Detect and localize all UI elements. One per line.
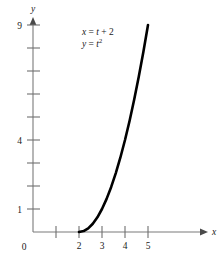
x-tick-label-5: 5 (146, 241, 151, 251)
equation-x: x = t + 2 (82, 27, 114, 39)
y-tick-label-9: 9 (17, 21, 22, 31)
equation-y-lhs: y (82, 39, 86, 49)
x-tick-label-4: 4 (123, 241, 128, 251)
equation-x-rhs: + 2 (101, 27, 113, 37)
y-tick-label-1: 1 (17, 205, 22, 215)
equation-y-equals: = (89, 39, 94, 49)
x-axis-label: x (211, 227, 217, 237)
y-axis-label: y (30, 4, 36, 14)
parametric-curve-figure: 9 4 1 0 2 3 4 5 y x x = t + 2 y = t2 (0, 0, 222, 257)
equation-annotation: x = t + 2 y = t2 (82, 27, 114, 50)
equation-x-lhs: x (82, 27, 86, 37)
x-axis-arrowhead (200, 229, 208, 236)
x-tick-label-3: 3 (100, 241, 105, 251)
equation-y: y = t2 (82, 39, 114, 51)
y-axis-arrowhead (30, 17, 37, 25)
equation-y-exponent: 2 (99, 36, 102, 43)
origin-label: 0 (22, 242, 27, 252)
y-tick-label-4: 4 (17, 136, 22, 146)
x-tick-label-2: 2 (77, 241, 82, 251)
equation-x-equals: = (89, 27, 94, 37)
parametric-curve (79, 25, 148, 232)
